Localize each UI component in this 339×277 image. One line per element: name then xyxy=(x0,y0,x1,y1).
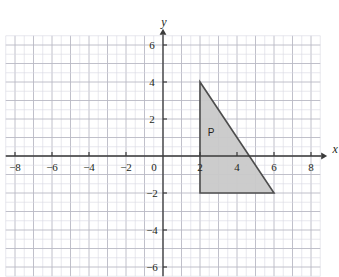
y-axis-label: y xyxy=(161,16,166,28)
y-tick-label: −2 xyxy=(146,188,158,199)
shape-label-p: P xyxy=(208,128,215,138)
x-tick-label: 2 xyxy=(197,162,203,173)
y-tick-label: −6 xyxy=(146,262,158,273)
y-axis-arrow-icon xyxy=(160,29,167,35)
y-tick-label: −4 xyxy=(146,225,158,236)
x-tick-label: −8 xyxy=(9,162,21,173)
y-tick-label: 6 xyxy=(149,40,155,51)
graph-canvas xyxy=(0,0,339,277)
y-tick-label: 4 xyxy=(149,77,155,88)
x-tick-label: −2 xyxy=(120,162,132,173)
x-axis-label: x xyxy=(333,143,338,155)
origin-label: 0 xyxy=(151,162,157,173)
x-tick-label: 4 xyxy=(234,162,240,173)
y-tick-label: 2 xyxy=(149,114,155,125)
x-tick-label: −4 xyxy=(83,162,95,173)
x-tick-label: 6 xyxy=(271,162,277,173)
coordinate-plane-figure: −8−6−4−22468642−2−4−60xyP xyxy=(0,0,339,277)
x-tick-label: −6 xyxy=(46,162,58,173)
x-tick-label: 8 xyxy=(308,162,314,173)
x-axis-arrow-icon xyxy=(321,153,327,160)
